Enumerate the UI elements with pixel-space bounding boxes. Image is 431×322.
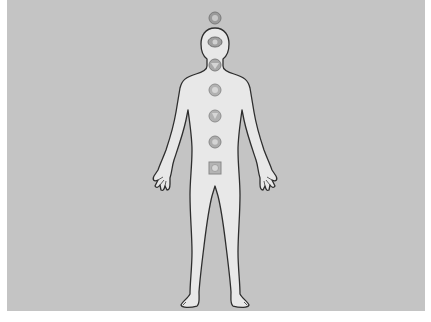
sacral-chakra-icon xyxy=(209,136,221,148)
human-figure-illustration xyxy=(0,0,431,322)
solar-plexus-chakra-icon xyxy=(209,110,221,122)
heart-chakra-icon xyxy=(209,84,221,96)
third-eye-chakra-icon xyxy=(208,37,222,47)
root-chakra-icon xyxy=(209,162,221,174)
throat-chakra-icon xyxy=(209,59,221,71)
crown-chakra-icon xyxy=(209,12,221,24)
